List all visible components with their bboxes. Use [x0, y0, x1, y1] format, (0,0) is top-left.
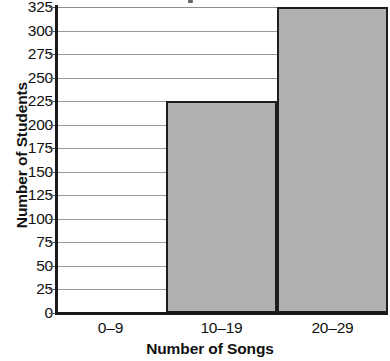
y-tick-label: 175: [18, 140, 53, 156]
y-axis-line: [55, 5, 58, 315]
y-tick-label: 100: [18, 211, 53, 227]
y-tick-label: 225: [18, 93, 53, 109]
x-axis-tick-labels: 0–910–1920–29: [55, 318, 388, 338]
y-tick-label: 0: [18, 305, 53, 321]
y-axis-tick-labels: 0255075100125150175200225250275300325: [18, 0, 53, 361]
x-tick-label: 10–19: [166, 318, 277, 338]
y-tick-label: 125: [18, 188, 53, 204]
bar-10-19: [166, 101, 277, 313]
cropped-title-remnant: [188, 0, 193, 3]
y-tick-label: 200: [18, 117, 53, 133]
bar-chart: Number of Students 025507510012515017520…: [0, 0, 390, 361]
x-axis-line: [55, 312, 388, 315]
y-tick-label: 75: [18, 235, 53, 251]
plot-area: [55, 7, 388, 313]
y-tick-label: 275: [18, 46, 53, 62]
y-tick-label: 150: [18, 164, 53, 180]
y-tick-label: 50: [18, 258, 53, 274]
y-tick-label: 300: [18, 23, 53, 39]
x-axis-title: Number of Songs: [55, 340, 365, 358]
y-tick-label: 325: [18, 0, 53, 15]
y-tick-label: 25: [18, 282, 53, 298]
x-tick-label: 0–9: [55, 318, 166, 338]
y-tick-label: 250: [18, 70, 53, 86]
x-tick-label: 20–29: [277, 318, 388, 338]
bar-20-29: [277, 7, 388, 313]
